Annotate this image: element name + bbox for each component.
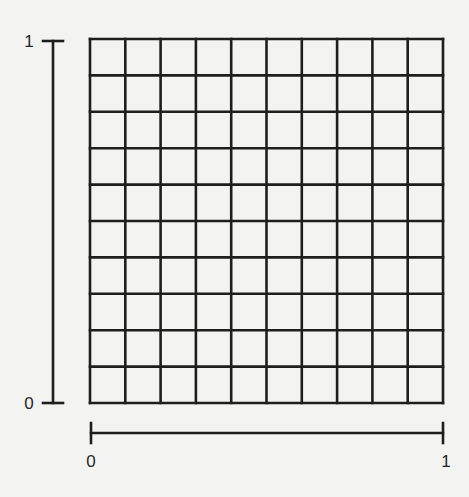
diagram-canvas xyxy=(0,0,469,497)
vertical-axis-max-label: 1 xyxy=(24,33,33,50)
vertical-axis-min-label: 0 xyxy=(24,395,33,412)
vertical-scale-bar xyxy=(43,41,63,403)
horizontal-axis-min-label: 0 xyxy=(86,453,95,470)
horizontal-axis-max-label: 1 xyxy=(441,453,450,470)
grid-10x10 xyxy=(90,39,443,403)
horizontal-scale-bar xyxy=(91,423,443,443)
unit-square-grid-diagram: 1 0 0 1 xyxy=(0,0,469,497)
